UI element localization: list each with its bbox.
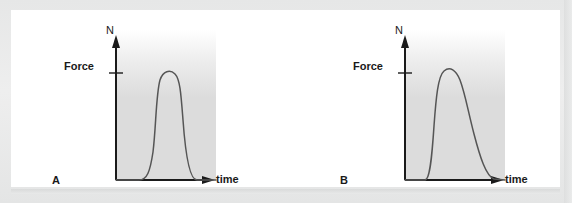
- y-axis-unit-label: N: [395, 24, 403, 36]
- y-axis-unit-label: N: [106, 24, 114, 36]
- frame-right-edge: [564, 0, 572, 203]
- panel-label-a: A: [52, 174, 60, 186]
- y-axis-label: Force: [353, 60, 383, 72]
- figure-panel: N Force time A: [11, 10, 560, 187]
- plot-shade-region-b: [405, 30, 505, 180]
- plot-shade-region-a: [116, 30, 216, 180]
- x-axis-label: time: [505, 173, 528, 185]
- chart-panel-b: N Force time B: [311, 10, 572, 187]
- chart-a-graphic: [23, 10, 298, 187]
- panel-bottom-rule: [11, 189, 560, 194]
- panel-label-b: B: [340, 174, 348, 186]
- y-axis-label: Force: [64, 60, 94, 72]
- figure-frame: N Force time A: [0, 0, 572, 203]
- x-axis-label: time: [216, 173, 239, 185]
- chart-b-graphic: [311, 10, 572, 187]
- chart-panel-a: N Force time A: [23, 10, 298, 187]
